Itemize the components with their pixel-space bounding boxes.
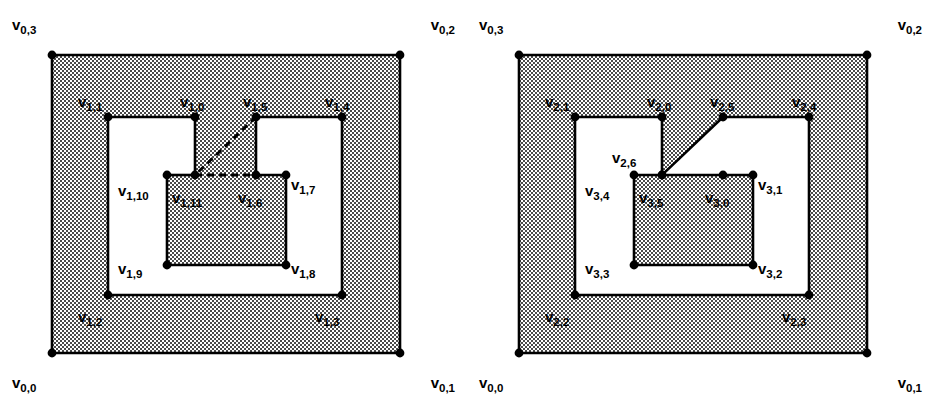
- vertex-dot: [719, 171, 728, 180]
- vertex-dot: [163, 261, 172, 270]
- vertex-label: v3,2: [758, 260, 782, 280]
- vertex-dot: [191, 171, 200, 180]
- vertex-dot: [863, 51, 872, 60]
- vertex-label: v0,0: [12, 374, 36, 394]
- vertex-dot: [396, 349, 405, 358]
- vertex-dot: [282, 171, 291, 180]
- shaded-regions-group: [52, 55, 400, 353]
- vertex-dot: [252, 113, 261, 122]
- vertex-dot: [749, 261, 758, 270]
- vertex-dot: [658, 113, 667, 122]
- vertex-dot: [338, 291, 347, 300]
- vertex-label: v0,3: [479, 16, 503, 36]
- vertex-dot: [805, 113, 814, 122]
- vertex-label: v1,7: [291, 176, 315, 196]
- vertex-label: v2,6: [612, 149, 636, 169]
- vertex-label: v1,10: [118, 182, 149, 202]
- left-diagram: v0,3v0,2v0,0v0,1v1,1v1,0v1,5v1,4v1,10v1,…: [0, 0, 467, 415]
- vertex-label: v0,3: [12, 16, 36, 36]
- vertex-label: v1,8: [291, 260, 316, 280]
- vertex-label: v3,4: [585, 182, 610, 202]
- vertex-dot: [104, 291, 113, 300]
- vertex-dot: [571, 113, 580, 122]
- vertex-dot: [191, 113, 200, 122]
- vertex-dot: [48, 51, 57, 60]
- vertex-dot: [571, 291, 580, 300]
- vertex-dot: [163, 171, 172, 180]
- vertex-label: v1,9: [118, 260, 142, 280]
- vertex-label: v3,1: [758, 176, 783, 196]
- vertex-dot: [338, 113, 347, 122]
- vertex-label: v3,3: [585, 260, 609, 280]
- vertex-label: v0,2: [898, 16, 922, 36]
- figure-canvas: v0,3v0,2v0,0v0,1v1,1v1,0v1,5v1,4v1,10v1,…: [0, 0, 934, 415]
- vertex-dot: [282, 261, 291, 270]
- vertex-dot: [515, 51, 524, 60]
- vertex-dot: [252, 171, 261, 180]
- vertex-dot: [863, 349, 872, 358]
- right-diagram: v0,3v0,2v0,0v0,1v2,1v2,0v2,5v2,4v2,6v3,4…: [467, 0, 934, 415]
- vertex-label: v0,1: [898, 374, 923, 394]
- vertex-dot: [658, 171, 667, 180]
- vertex-dot: [630, 171, 639, 180]
- vertex-label: v0,0: [479, 374, 503, 394]
- vertex-label: v0,1: [431, 374, 456, 394]
- vertex-dot: [48, 349, 57, 358]
- vertex-dot: [396, 51, 405, 60]
- vertex-dot: [749, 171, 758, 180]
- vertex-dot: [719, 113, 728, 122]
- shaded-regions-group: [519, 55, 867, 353]
- shaded-region: [634, 175, 753, 265]
- vertex-dot: [805, 291, 814, 300]
- vertex-label: v0,2: [431, 16, 455, 36]
- shaded-region: [167, 175, 286, 265]
- vertex-dot: [630, 261, 639, 270]
- vertex-dot: [515, 349, 524, 358]
- vertex-dot: [104, 113, 113, 122]
